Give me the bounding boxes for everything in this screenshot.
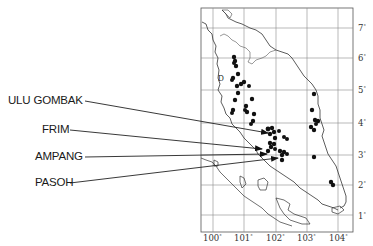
island-outline xyxy=(258,178,268,190)
riau-islands xyxy=(276,198,310,224)
longitude-label: 103° xyxy=(297,233,316,243)
sample-sites xyxy=(230,55,335,187)
latitude-label: 1° xyxy=(358,211,366,221)
longitude-label: 100° xyxy=(203,233,222,243)
latitude-label: 7° xyxy=(358,23,366,33)
inset-marker: D xyxy=(218,74,224,83)
leader-arrow xyxy=(85,154,267,157)
site-label-ulu-gombak: ULU GOMBAK xyxy=(8,94,83,106)
longitude-label: 101° xyxy=(234,233,253,243)
latitude-label: 6° xyxy=(358,53,366,63)
latitude-label: 5° xyxy=(358,85,366,95)
longitude-label: 102° xyxy=(266,233,285,243)
site-label-ampang: AMPANG xyxy=(35,150,83,162)
latitude-label: 3° xyxy=(358,150,366,160)
longitude-label: 104° xyxy=(329,233,348,243)
leader-arrow xyxy=(70,130,262,149)
border-line xyxy=(220,34,276,64)
latitude-label: 2° xyxy=(358,180,366,190)
latitude-label: 4° xyxy=(358,118,366,128)
west-coastline xyxy=(202,22,338,210)
site-label-frim: FRIM xyxy=(42,123,69,135)
sumatra-coastline xyxy=(201,158,292,226)
island-outline xyxy=(240,176,246,188)
east-coastline xyxy=(222,10,346,208)
leader-arrow xyxy=(85,101,268,133)
leader-arrow xyxy=(70,158,278,183)
site-label-pasoh: PASOH xyxy=(35,176,73,188)
